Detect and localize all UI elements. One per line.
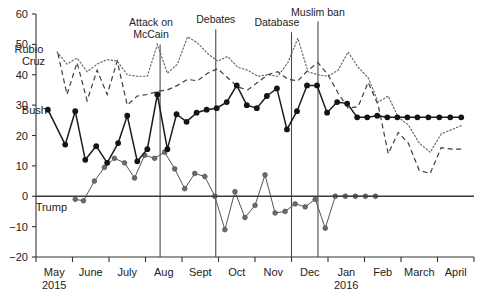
series-label-rubio: Rubio bbox=[15, 43, 44, 55]
x-tick-label-month: Feb bbox=[373, 266, 392, 278]
data-point bbox=[354, 114, 360, 120]
series-label-trump: Trump bbox=[36, 201, 67, 213]
x-tick-label-year: 2015 bbox=[42, 279, 66, 291]
y-tick-label: 0 bbox=[22, 190, 28, 202]
data-point bbox=[222, 227, 227, 232]
event-annotation-label: Muslim ban bbox=[291, 6, 345, 18]
series-cruz bbox=[58, 53, 463, 173]
data-point bbox=[374, 113, 380, 119]
data-point bbox=[283, 209, 288, 214]
political-coverage-line-chart: −20−100102030405060 May2015JuneJulyAugSe… bbox=[0, 0, 481, 291]
data-point bbox=[224, 99, 230, 105]
data-point bbox=[436, 114, 442, 120]
data-point bbox=[202, 174, 207, 179]
x-tick-label-month: March bbox=[404, 266, 435, 278]
x-tick-label-month: April bbox=[445, 266, 467, 278]
data-point bbox=[154, 92, 160, 98]
data-point bbox=[192, 171, 197, 176]
data-point bbox=[194, 110, 200, 116]
event-annotation-label: Debates bbox=[196, 13, 235, 25]
data-point bbox=[182, 186, 187, 191]
x-tick-label-year: 2016 bbox=[334, 279, 358, 291]
x-tick-label-month: June bbox=[79, 266, 103, 278]
data-point bbox=[274, 86, 280, 92]
x-tick-label-month: Dec bbox=[300, 266, 320, 278]
data-point bbox=[172, 167, 177, 172]
event-annotation-label: Attack on bbox=[129, 16, 173, 28]
chart-container: −20−100102030405060 May2015JuneJulyAugSe… bbox=[0, 0, 481, 291]
data-point bbox=[204, 107, 210, 113]
data-point bbox=[72, 108, 78, 114]
y-tick-label: −20 bbox=[9, 251, 28, 263]
x-tick-label-month: Jan bbox=[337, 266, 355, 278]
data-point bbox=[263, 173, 268, 178]
data-point bbox=[294, 108, 300, 114]
series-trump bbox=[73, 150, 378, 232]
data-point bbox=[404, 114, 410, 120]
data-point bbox=[304, 82, 310, 88]
data-point bbox=[81, 198, 86, 203]
data-point bbox=[323, 226, 328, 231]
data-point bbox=[334, 99, 340, 105]
event-annotation-label: McCain bbox=[133, 28, 169, 40]
data-point bbox=[132, 176, 137, 181]
y-tick-label: 60 bbox=[16, 8, 28, 20]
data-point bbox=[214, 105, 220, 111]
series-line-bush bbox=[48, 85, 461, 162]
data-point bbox=[82, 157, 88, 163]
series-bush bbox=[45, 82, 464, 165]
data-point bbox=[234, 82, 240, 88]
series-label-cruz: Cruz bbox=[22, 55, 45, 67]
data-point bbox=[73, 197, 78, 202]
x-axis: May2015JuneJulyAugSeptOctNovDecJan2016Fe… bbox=[36, 257, 474, 291]
data-point bbox=[93, 143, 99, 149]
data-series-group bbox=[45, 37, 464, 232]
data-point bbox=[253, 203, 258, 208]
data-point bbox=[104, 160, 110, 166]
data-point bbox=[324, 110, 330, 116]
event-marker-lines bbox=[160, 22, 318, 257]
x-tick-label-month: July bbox=[117, 266, 137, 278]
data-point bbox=[415, 114, 421, 120]
y-tick-label: 40 bbox=[16, 69, 28, 81]
x-tick-label-month: May bbox=[44, 266, 65, 278]
event-annotation-labels: Attack onMcCainDebatesDatabaseMuslim ban bbox=[129, 6, 345, 41]
data-point bbox=[264, 93, 270, 99]
data-point bbox=[314, 82, 320, 88]
data-point bbox=[62, 142, 68, 148]
y-tick-label: −10 bbox=[9, 221, 28, 233]
series-line-cruz bbox=[58, 53, 463, 173]
data-point bbox=[233, 189, 238, 194]
data-point bbox=[165, 146, 171, 152]
x-tick-label-month: Nov bbox=[263, 266, 283, 278]
data-point bbox=[344, 101, 350, 107]
data-point bbox=[244, 102, 250, 108]
data-point bbox=[174, 111, 180, 117]
data-point bbox=[284, 127, 290, 133]
data-point bbox=[394, 114, 400, 120]
series-rubio bbox=[57, 37, 463, 152]
data-point bbox=[122, 160, 127, 165]
data-point bbox=[112, 156, 117, 161]
data-point bbox=[313, 197, 318, 202]
data-point bbox=[425, 114, 431, 120]
data-point bbox=[303, 204, 308, 209]
data-point bbox=[92, 179, 97, 184]
event-annotation-label: Database bbox=[254, 16, 299, 28]
series-label-bush: Bush bbox=[22, 104, 47, 116]
data-point bbox=[458, 114, 464, 120]
data-point bbox=[184, 119, 190, 125]
data-point bbox=[447, 114, 453, 120]
x-tick-label-month: Sept bbox=[189, 266, 212, 278]
data-point bbox=[152, 156, 157, 161]
data-point bbox=[144, 146, 150, 152]
data-point bbox=[364, 114, 370, 120]
data-point bbox=[273, 211, 278, 216]
data-point bbox=[102, 165, 107, 170]
data-point bbox=[254, 105, 260, 111]
x-tick-label-month: Aug bbox=[154, 266, 174, 278]
x-tick-label-month: Oct bbox=[228, 266, 245, 278]
y-tick-label: 20 bbox=[16, 130, 28, 142]
y-tick-label: 10 bbox=[16, 160, 28, 172]
data-point bbox=[384, 114, 390, 120]
